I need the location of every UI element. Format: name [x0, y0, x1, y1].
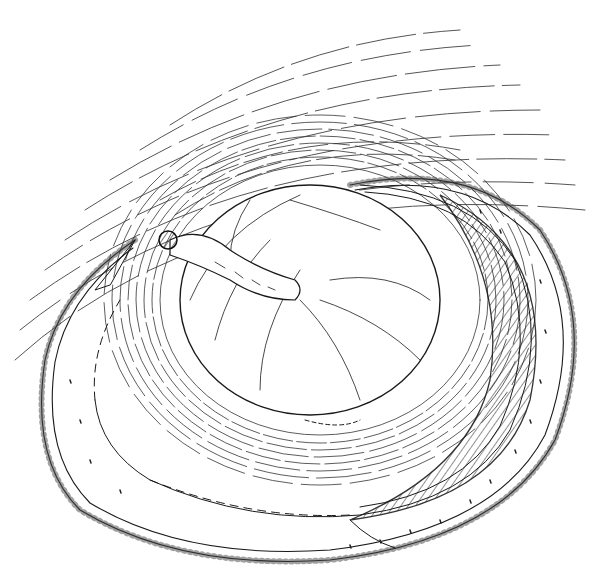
dark-head-mass: [159, 231, 177, 249]
line-drawing: [0, 0, 605, 579]
illustration: [0, 0, 605, 579]
inner-oval: [180, 185, 440, 425]
membrane-seam: [350, 520, 395, 548]
